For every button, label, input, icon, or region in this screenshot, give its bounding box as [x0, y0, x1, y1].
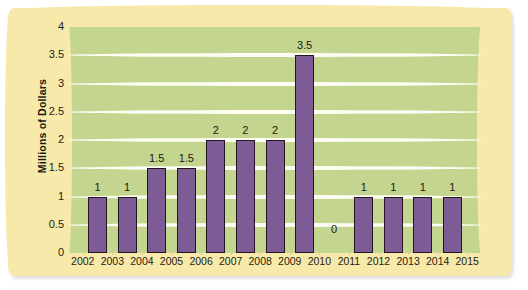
bar — [384, 197, 403, 254]
bar — [177, 168, 196, 253]
bar — [266, 140, 285, 253]
y-tick-label: 2.5 — [24, 105, 64, 117]
bar — [206, 140, 225, 253]
y-tick-label: 3.5 — [24, 48, 64, 60]
bar-value-label: 2 — [258, 124, 292, 136]
bar-chart: Millions of Dollars 43.532.521.510.50 20… — [0, 0, 528, 290]
bar-value-label: 1 — [435, 181, 469, 193]
y-tick-label: 2 — [24, 133, 64, 145]
bar-value-label: 1.5 — [169, 152, 203, 164]
x-tick-label: 2015 — [450, 255, 484, 267]
y-axis: Millions of Dollars 43.532.521.510.50 — [14, 0, 64, 290]
bar — [118, 197, 137, 254]
y-tick-label: 0.5 — [24, 218, 64, 230]
y-tick-label: 4 — [24, 20, 64, 32]
y-tick-label: 0 — [24, 246, 64, 258]
bar-series: 111.51.52223.501111 — [68, 27, 482, 253]
bar — [295, 55, 314, 253]
bar — [354, 197, 373, 254]
x-axis: 2002200320042005200620072008200920102011… — [68, 255, 482, 275]
bar-value-label: 1 — [110, 181, 144, 193]
bar — [88, 197, 107, 254]
bar — [236, 140, 255, 253]
bar-value-label: 3.5 — [288, 39, 322, 51]
y-tick-label: 3 — [24, 77, 64, 89]
bar — [443, 197, 462, 254]
bar — [413, 197, 432, 254]
y-tick-label: 1 — [24, 190, 64, 202]
y-tick-label: 1.5 — [24, 161, 64, 173]
bar — [147, 168, 166, 253]
bar-value-label: 0 — [317, 223, 351, 235]
